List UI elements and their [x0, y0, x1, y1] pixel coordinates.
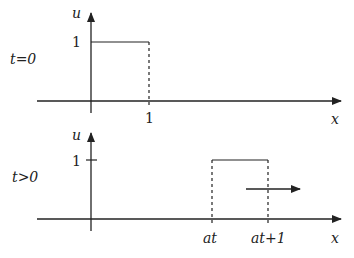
y-tick-label: 1 [72, 153, 81, 169]
y-axis-label: u [72, 5, 81, 21]
y-axis-label: u [72, 127, 81, 143]
x-tick-label-at: at [203, 230, 217, 246]
diagram-canvas: u 1 t=0 1 x u 1 t>0 at at+1 x [0, 0, 354, 258]
panel-bottom: u 1 t>0 at at+1 x [12, 127, 341, 246]
x-axis-label: x [331, 230, 339, 246]
x-axis-label: x [331, 111, 339, 127]
time-label: t=0 [10, 51, 36, 67]
x-tick-label-at-plus-1: at+1 [251, 230, 286, 246]
y-tick-label: 1 [72, 34, 81, 50]
panel-top: u 1 t=0 1 x [10, 5, 341, 127]
x-tick-label: 1 [145, 110, 154, 126]
time-label: t>0 [12, 169, 38, 185]
